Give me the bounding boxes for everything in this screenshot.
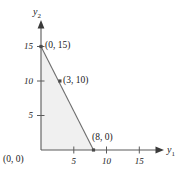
point-label-8-0: (8, 0)	[92, 133, 113, 143]
y-axis-label: y2	[33, 7, 41, 20]
x-tick-label-15: 15	[130, 157, 148, 166]
y-axis-label-subscript: 2	[37, 12, 41, 20]
x-axis-arrowhead	[156, 147, 165, 154]
point-label-3-10: (3, 10)	[63, 76, 88, 86]
y-tick-label-10: 10	[15, 77, 33, 86]
point-label-0-0: (0, 0)	[3, 155, 24, 165]
y-axis-arrowhead	[38, 20, 45, 29]
point-marker-3-10	[58, 79, 61, 82]
point-marker-0-15	[39, 45, 42, 48]
y-tick-label-15: 15	[15, 42, 33, 51]
point-label-0-15: (0, 15)	[45, 41, 70, 51]
feasible-region-plot: y2 y1 15 10 5 5 10 15 (0, 15) (3, 10) (8…	[0, 0, 185, 173]
point-marker-8-0	[92, 148, 95, 151]
x-axis-label: y1	[167, 145, 175, 158]
plot-canvas	[0, 0, 185, 173]
x-tick-label-5: 5	[65, 157, 83, 166]
y-tick-label-5: 5	[15, 111, 33, 120]
x-tick-label-10: 10	[98, 157, 116, 166]
x-axis-label-subscript: 1	[171, 150, 175, 158]
